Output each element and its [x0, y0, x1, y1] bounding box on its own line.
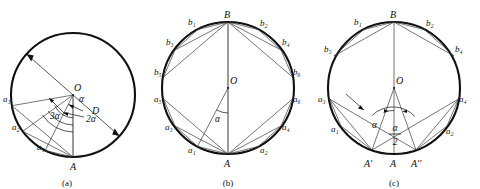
label-center-O-a: O — [74, 82, 81, 93]
label-angle-2alpha-a: 2α — [86, 114, 97, 124]
arc-tick-right-c — [403, 110, 408, 114]
label-point-Adoubleprime-c: A'' — [410, 158, 422, 169]
label-point-b4-c: b₄ — [455, 44, 463, 54]
label-point-a3-c: a₃ — [318, 94, 326, 104]
label-point-b1-c: b₁ — [354, 17, 362, 27]
label-angle-alpha-a: α — [79, 94, 85, 104]
radius-Oa3 — [12, 95, 73, 106]
chord-B-b3-b — [175, 22, 228, 50]
edge-a1-Aprime-c — [341, 126, 372, 150]
label-point-A-b: A — [223, 158, 231, 169]
label-point-a5-b: a₅ — [154, 94, 162, 104]
figure-root: D O α 2α 3α — [0, 0, 480, 189]
label-point-B-b: B — [224, 9, 230, 20]
angle-leader-alpha-a — [69, 105, 84, 112]
label-angle-alpha-c: α — [372, 120, 378, 130]
edge-a2-Adoubleprime-c — [416, 126, 447, 150]
label-half-angle-denominator-c: 2 — [393, 137, 398, 147]
angle-leader-alpha-c — [346, 94, 364, 110]
chord-A-a4-b — [228, 126, 281, 154]
label-center-O-b: O — [230, 75, 237, 86]
caption-c: (c) — [389, 178, 399, 188]
label-point-a6-b: a₆ — [293, 94, 301, 104]
angle-leader-3alpha-a — [49, 98, 63, 112]
edge-a4-a2-c — [447, 99, 459, 126]
label-point-b3-c: b₃ — [324, 44, 332, 54]
point-A-b — [227, 153, 229, 155]
label-point-a4-c: a₄ — [459, 94, 467, 104]
label-point-a3-b: a₃ — [165, 122, 173, 132]
label-point-a2-a: a₂ — [12, 122, 20, 132]
radius-O-a1-b — [198, 88, 229, 146]
label-point-Aprime-c: A' — [363, 158, 373, 169]
edge-b3-b1-c — [334, 30, 364, 56]
label-point-b2-c: b₂ — [426, 18, 434, 28]
label-point-a1-b: a₁ — [188, 145, 196, 155]
label-point-a1-c: a₁ — [331, 124, 339, 134]
label-point-A-c: A — [389, 158, 397, 169]
edge-b4-b2-c — [425, 30, 455, 56]
chord-B-b3-c — [334, 22, 394, 56]
chord-A-a3-b — [175, 126, 228, 154]
point-A-c — [393, 153, 395, 155]
chord-Aa2 — [23, 131, 73, 157]
point-B-b — [227, 21, 229, 23]
label-point-A-a: A — [69, 161, 77, 172]
label-point-a2-b: a₂ — [260, 145, 268, 155]
label-point-b4-b: b₄ — [282, 37, 290, 47]
label-point-b6-b: b₆ — [293, 67, 301, 77]
label-point-b3-b: b₃ — [166, 37, 174, 47]
caption-a: (a) — [62, 178, 72, 188]
label-half-angle-numerator-c: α — [393, 123, 399, 133]
caption-b: (b) — [223, 178, 234, 188]
chord-B-b4-c — [394, 22, 454, 56]
label-point-a2-c: a₂ — [446, 126, 454, 136]
edge-b6-b4-b — [281, 50, 293, 77]
label-point-a1-a: a₁ — [37, 142, 45, 152]
edge-b5-b3-b — [164, 50, 176, 77]
panel-a: D O α 2α 3α — [0, 0, 150, 189]
label-center-O-c: O — [396, 75, 403, 86]
point-A-a — [72, 156, 74, 158]
panel-c: O — [312, 0, 480, 189]
edge-a3-a1-c — [330, 99, 342, 126]
label-point-a4-b: a₄ — [282, 122, 290, 132]
radius-O-Aprime-c — [372, 88, 394, 150]
angle-arc-alpha-c — [372, 107, 415, 117]
panel-b: O α B A b₁ b₂ — [150, 0, 312, 189]
chord-B-b4-b — [228, 22, 281, 50]
chord-Aprime-a4-c — [372, 99, 459, 150]
label-point-B-c: B — [390, 9, 396, 20]
angle-arc-alpha-b — [217, 110, 229, 113]
label-angle-3alpha-a: 3α — [49, 111, 61, 121]
label-point-b5-b: b₅ — [154, 67, 162, 77]
chord-Adoubleprime-a4-c — [416, 99, 459, 150]
label-point-b2-b: b₂ — [260, 18, 268, 28]
label-angle-alpha-b: α — [215, 114, 221, 124]
label-point-a3-a: a₃ — [3, 94, 11, 104]
label-point-b1-b: b₁ — [188, 17, 196, 27]
